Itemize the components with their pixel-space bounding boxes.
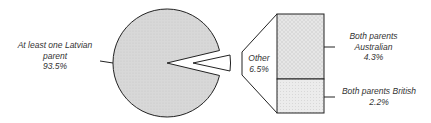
label-british-line1: Both parents British (334, 86, 424, 97)
label-australian: Both parents Australian 4.3% (336, 31, 411, 63)
label-latvian-line1: At least one Latvian (10, 40, 100, 51)
label-latvian-line2: parent (10, 51, 100, 62)
pie-slice-other (193, 55, 231, 71)
label-latvian-value: 93.5% (10, 61, 100, 72)
bar-segment-british (277, 79, 324, 113)
label-latvian: At least one Latvian parent 93.5% (10, 40, 100, 72)
connector-top (242, 14, 277, 52)
label-australian-value: 4.3% (336, 52, 411, 63)
label-other-value: 6.5% (244, 64, 274, 75)
label-other-line1: Other (244, 53, 274, 64)
label-other: Other 6.5% (244, 53, 274, 74)
label-british: Both parents British 2.2% (334, 86, 424, 107)
label-british-value: 2.2% (334, 97, 424, 108)
bar-segment-australian (277, 14, 324, 79)
leader-latvian (100, 61, 113, 63)
label-australian-line1: Both parents (336, 31, 411, 42)
label-australian-line2: Australian (336, 42, 411, 53)
connector-bottom (242, 75, 277, 113)
